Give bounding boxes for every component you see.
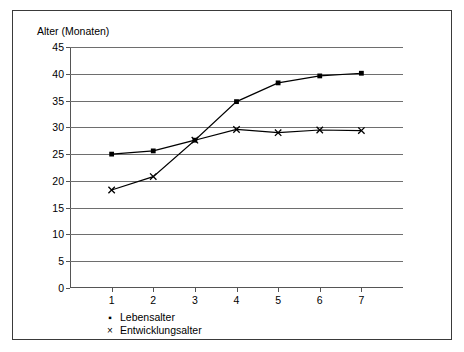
series-layer: [70, 47, 403, 288]
plot-area: 051015202530354045 1234567: [70, 47, 403, 288]
data-point-marker: [150, 173, 156, 179]
x-tick-mark: [237, 288, 238, 292]
x-marker-icon: ×: [103, 324, 117, 337]
data-point-marker: [317, 74, 322, 79]
x-tick-label: 3: [192, 294, 198, 306]
y-tick-label: 30: [42, 121, 64, 133]
x-tick-label: 7: [358, 294, 364, 306]
y-axis-title: Alter (Monaten): [37, 25, 109, 37]
data-point-marker: [234, 99, 239, 104]
x-tick-mark: [112, 288, 113, 292]
x-tick-mark: [278, 288, 279, 292]
x-tick-mark: [361, 288, 362, 292]
y-tick-label: 20: [42, 175, 64, 187]
chart-container: Alter (Monaten) 051015202530354045 12345…: [12, 10, 452, 340]
y-tick-label: 25: [42, 148, 64, 160]
series-entwicklungsalter: [108, 126, 364, 193]
series-lebensalter: [109, 71, 364, 157]
data-point-marker: [151, 149, 156, 154]
data-point-marker: [276, 80, 281, 85]
data-point-marker: [108, 187, 114, 193]
y-tick-mark: [66, 288, 70, 289]
legend-item-entwicklungsalter: × Entwicklungsalter: [103, 324, 202, 337]
x-tick-label: 2: [150, 294, 156, 306]
y-tick-label: 5: [42, 255, 64, 267]
series-line: [112, 129, 362, 190]
legend: ▪ Lebensalter × Entwicklungsalter: [103, 311, 202, 337]
x-tick-mark: [320, 288, 321, 292]
y-tick-label: 45: [42, 41, 64, 53]
legend-label: Entwicklungsalter: [120, 324, 202, 337]
x-tick-mark: [195, 288, 196, 292]
y-tick-label: 10: [42, 228, 64, 240]
x-tick-label: 5: [275, 294, 281, 306]
y-tick-label: 15: [42, 202, 64, 214]
legend-label: Lebensalter: [120, 311, 175, 324]
data-point-marker: [359, 71, 364, 76]
y-tick-label: 35: [42, 95, 64, 107]
x-tick-label: 4: [234, 294, 240, 306]
y-tick-label: 40: [42, 68, 64, 80]
square-marker-icon: ▪: [103, 311, 117, 324]
y-tick-label: 0: [42, 282, 64, 294]
x-tick-label: 6: [317, 294, 323, 306]
x-tick-mark: [153, 288, 154, 292]
data-point-marker: [109, 152, 114, 157]
x-tick-label: 1: [109, 294, 115, 306]
series-line: [112, 73, 362, 154]
legend-item-lebensalter: ▪ Lebensalter: [103, 311, 202, 324]
